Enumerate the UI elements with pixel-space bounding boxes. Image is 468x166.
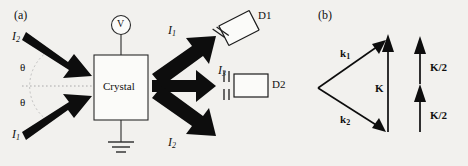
input-beam-I1-label-sub: 1 [16, 133, 20, 142]
input-beam-I1-label: I1 [12, 128, 20, 142]
figure-canvas [0, 0, 468, 166]
crystal-label: Crystal [103, 81, 135, 92]
output-beam-I1-label-sub: 1 [172, 29, 176, 38]
vector-k2-arrow [318, 88, 386, 132]
input-beam-I2-label: I2 [12, 30, 20, 44]
panel-a-tag: (a) [14, 9, 27, 21]
panel-b-tag: (b) [318, 9, 332, 21]
detector-d2-body[interactable] [234, 74, 268, 97]
vector-K-half-lower-arrow [414, 84, 426, 132]
angle-theta-lower-label: θ [20, 97, 25, 108]
vector-K-half-upper-label: K/2 [430, 62, 447, 73]
vector-k2-label-sub: 2 [346, 118, 350, 127]
output-beam-I2-label: I2 [168, 136, 176, 150]
vector-k2-label: k2 [340, 114, 350, 127]
vector-K-half-upper-arrow [414, 36, 426, 84]
detector-d1-label: D1 [258, 10, 271, 21]
ground-icon [108, 142, 134, 152]
output-beam-I1-label: I1 [168, 24, 176, 38]
detector-d2-label: D2 [272, 79, 285, 90]
output-beam-I2-label-sub: 2 [172, 141, 176, 150]
voltmeter-label: V [117, 19, 124, 29]
vector-k1-label-sub: 1 [346, 52, 350, 61]
vector-k1-arrow [318, 40, 386, 88]
vector-K-half-lower-label: K/2 [430, 110, 447, 121]
vector-k1-label: k1 [340, 48, 350, 61]
output-beam-I3-label: I3 [218, 64, 226, 78]
angle-theta-upper-label: θ [20, 62, 25, 73]
input-beam-I2-label-sub: 2 [16, 35, 20, 44]
vector-K-label: K [375, 83, 384, 94]
output-beam-I3-label-sub: 3 [222, 69, 226, 78]
detector-d1-body[interactable] [219, 10, 259, 45]
